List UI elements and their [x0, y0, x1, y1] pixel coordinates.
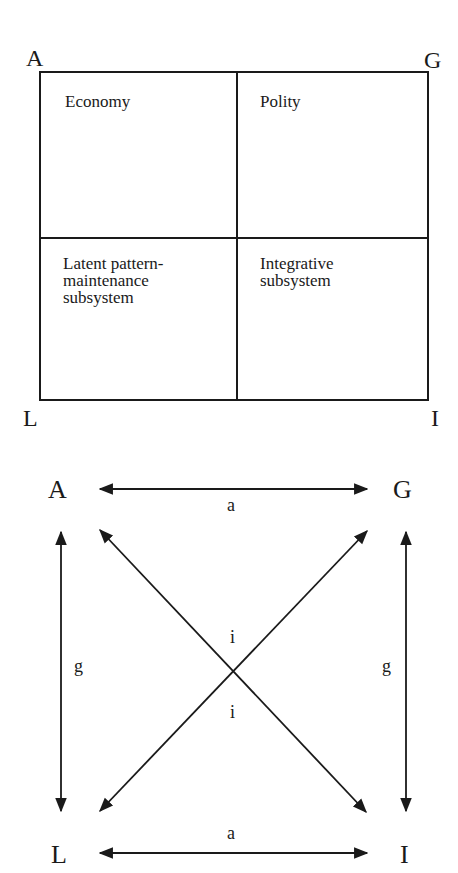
- edge-label-left-g: g: [74, 657, 83, 675]
- node-g: G: [393, 477, 412, 503]
- edge-label-center-lower-i: i: [230, 703, 235, 721]
- edge-label-right-g: g: [382, 657, 391, 675]
- arrows-layer: [0, 0, 458, 873]
- node-a: A: [48, 477, 67, 503]
- node-i: I: [400, 842, 409, 868]
- node-l: L: [51, 842, 67, 868]
- edge-label-center-upper-i: i: [230, 628, 235, 646]
- edge-label-top-a: a: [227, 496, 235, 514]
- edge-label-bottom-a: a: [227, 824, 235, 842]
